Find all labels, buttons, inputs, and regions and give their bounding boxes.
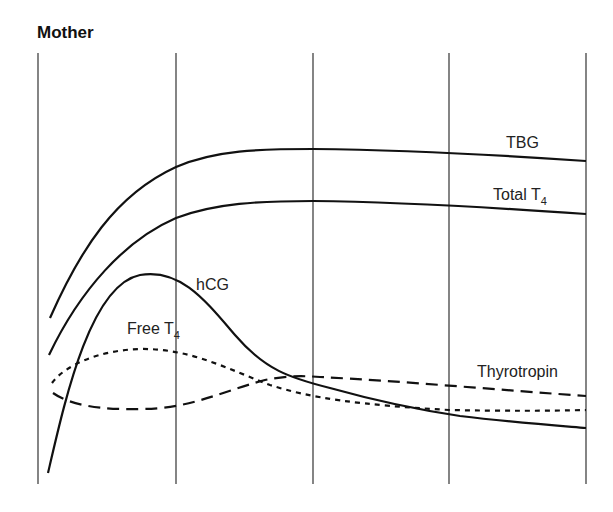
label-free-t4-main: Free T — [127, 320, 174, 337]
label-hcg: hCG — [196, 276, 229, 293]
vertical-gridlines — [38, 53, 586, 484]
chart-canvas: TBG Total T4 hCG Free T4 Thyrotropin — [0, 0, 613, 512]
label-tbg: TBG — [506, 134, 539, 151]
curve-tbg — [50, 149, 586, 318]
label-total-t4-sub: 4 — [541, 195, 547, 207]
label-total-t4: Total T4 — [493, 186, 547, 207]
label-thyrotropin: Thyrotropin — [477, 363, 558, 380]
label-free-t4-sub: 4 — [174, 329, 180, 341]
label-free-t4: Free T4 — [127, 320, 180, 341]
curve-thyrotropin — [53, 376, 586, 409]
label-total-t4-main: Total T — [493, 186, 541, 203]
